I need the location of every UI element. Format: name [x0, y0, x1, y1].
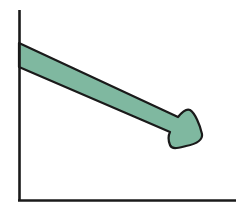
downward-trend-arrow-icon: [19, 43, 202, 148]
trend-diagram: [0, 0, 249, 211]
